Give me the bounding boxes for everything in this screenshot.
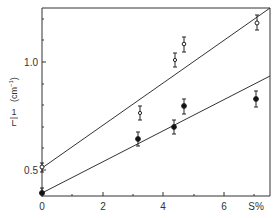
- data-point-filled: [136, 132, 141, 146]
- svg-text:(cm−1): (cm−1): [8, 77, 19, 102]
- x-axis-unit-label: S%: [248, 201, 264, 212]
- chart: 0 2 4 6 S% 0.5 1.0 1 L (cm−1): [0, 0, 280, 218]
- y-axis-label: 1 L (cm−1): [8, 77, 19, 128]
- x-tick-label-6: 6: [221, 201, 227, 212]
- x-axis-ticks: [72, 192, 254, 196]
- data-point-filled: [182, 99, 187, 114]
- x-tick-label-0: 0: [39, 201, 45, 212]
- data-point-open: [173, 53, 177, 67]
- data-point-filled: [254, 91, 259, 107]
- data-point-open: [255, 15, 259, 30]
- x-tick-label-2: 2: [100, 201, 106, 212]
- fit-line-filled: [42, 76, 270, 193]
- data-point-open: [138, 106, 142, 120]
- x-tick-label-4: 4: [160, 201, 166, 212]
- svg-text:1: 1: [11, 107, 16, 117]
- data-point-open: [40, 163, 44, 172]
- plot-frame: [42, 8, 270, 196]
- y-tick-label-1-0: 1.0: [24, 57, 38, 68]
- y-axis-ticks: [42, 19, 46, 170]
- data-point-open: [182, 37, 186, 52]
- y-tick-label-0-5: 0.5: [24, 165, 38, 176]
- svg-text:L: L: [11, 118, 16, 128]
- data-point-filled: [172, 120, 177, 134]
- series-filled-markers: [40, 91, 259, 197]
- fit-line-open: [42, 8, 270, 168]
